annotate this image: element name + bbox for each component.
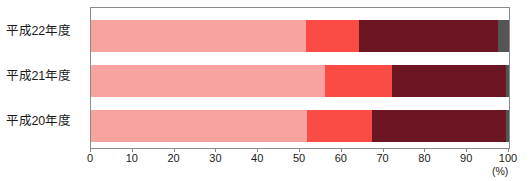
x-axis-tick-label: 20 xyxy=(167,153,179,164)
x-axis-tick-label: 40 xyxy=(251,153,263,164)
bar-segment-2[interactable] xyxy=(306,20,359,52)
axis-unit-label: (%) xyxy=(492,166,508,177)
bar-segment-1[interactable] xyxy=(91,65,325,97)
x-axis-tick-label: 80 xyxy=(418,153,430,164)
bar-segment-1[interactable] xyxy=(91,110,307,142)
bar-segment-4[interactable] xyxy=(506,65,509,97)
category-label-2: 平成20年度 xyxy=(6,115,84,128)
x-axis-tick-label: 30 xyxy=(209,153,221,164)
x-axis-tick-label: 10 xyxy=(126,153,138,164)
x-axis-tick-label: 90 xyxy=(460,153,472,164)
bar-segment-3[interactable] xyxy=(359,20,498,52)
x-axis: 0102030405060708090100 xyxy=(90,148,508,149)
bar-segment-4[interactable] xyxy=(506,110,509,142)
bar-row[interactable] xyxy=(91,65,509,97)
bar-segment-2[interactable] xyxy=(325,65,392,97)
bar-segment-4[interactable] xyxy=(498,20,509,52)
plot-area xyxy=(90,7,510,149)
category-label-0: 平成22年度 xyxy=(6,25,84,38)
x-axis-tick-label: 0 xyxy=(87,153,93,164)
bar-segment-3[interactable] xyxy=(392,65,506,97)
x-axis-tick-label: 60 xyxy=(335,153,347,164)
bar-segment-3[interactable] xyxy=(372,110,506,142)
x-axis-tick-label: 50 xyxy=(293,153,305,164)
bar-segment-2[interactable] xyxy=(307,110,372,142)
stacked-bar-chart: 平成22年度 平成21年度 平成20年度 0102030405060708090… xyxy=(0,0,531,181)
x-axis-tick-label: 70 xyxy=(376,153,388,164)
bar-row[interactable] xyxy=(91,110,509,142)
bar-row[interactable] xyxy=(91,20,509,52)
bar-segment-1[interactable] xyxy=(91,20,306,52)
category-label-1: 平成21年度 xyxy=(6,70,84,83)
x-axis-tick-label: 100 xyxy=(499,153,517,164)
